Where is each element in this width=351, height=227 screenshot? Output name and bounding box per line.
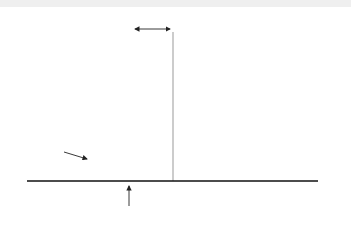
normal-curve-chart [0, 0, 351, 227]
tail-area-arrow [64, 152, 87, 159]
